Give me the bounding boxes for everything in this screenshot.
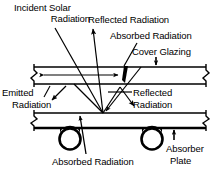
absorbed-radiation-bottom-label: Absorbed Radiation (52, 156, 134, 167)
absorber-plate-group (31, 110, 209, 131)
reflected-from-cover-ray (93, 29, 103, 113)
reflected-radiation-mid-label-line2: Radiation (133, 99, 172, 110)
absorbed-in-cover-arrow (122, 66, 128, 83)
fluid-tube-left (60, 129, 81, 150)
incident-solar-ray-line (55, 28, 103, 113)
incident-solar-ray (55, 28, 103, 113)
emitted-radiation-ray (52, 86, 66, 100)
absorber-plate-label-line2: Plate (170, 155, 191, 166)
reflected-radiation-top-label: Reflected Radiation (88, 14, 169, 25)
fluid-tubes-group (60, 126, 163, 150)
emitted-radiation-ray-line (52, 86, 66, 100)
fluid-tube-right (142, 129, 163, 150)
absorbed-radiation-top-label: Absorbed Radiation (110, 30, 192, 41)
emitted-label-leader (44, 86, 50, 97)
cover-glazing-label: Cover Glazing (132, 46, 191, 57)
emitted-label-leader-line (44, 86, 50, 97)
emitted-radiation-label-line2: Radiation (12, 99, 51, 110)
incident-solar-label-line2: Radiation (14, 13, 90, 24)
reflected-radiation-mid-label-line1: Reflected (133, 87, 172, 98)
incident-solar-label-line1: Incident Solar (14, 2, 71, 13)
emitted-radiation-label-line1: Emitted (2, 87, 34, 98)
solar-collector-diagram: Incident Solar Radiation Reflected Radia… (0, 0, 215, 175)
reflected-from-plate-up-line (103, 87, 120, 113)
reflected-from-cover-ray-line (93, 29, 103, 113)
absorber-plate-label-line1: Absorber (166, 143, 204, 154)
